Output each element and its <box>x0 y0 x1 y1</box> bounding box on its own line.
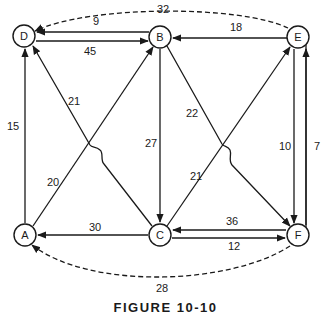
weight-E-B: 18 <box>230 21 242 33</box>
weight-E-D: 32 <box>157 3 169 15</box>
weight-F-C: 36 <box>226 215 238 227</box>
weight-A-D: 15 <box>7 120 19 132</box>
figure-caption: FIGURE 10-10 <box>0 300 331 315</box>
edge-A-B <box>33 47 153 226</box>
weight-B-D: 9 <box>93 15 99 27</box>
edge-C-E <box>167 47 290 226</box>
node-label: E <box>294 31 301 43</box>
weight-E-F: 10 <box>279 140 291 152</box>
weight-C-D: 21 <box>68 95 80 107</box>
weight-F-E: 7 <box>314 140 320 152</box>
weight-C-F: 12 <box>228 240 240 252</box>
node-label: C <box>156 229 164 241</box>
weight-B-F: 22 <box>186 107 198 119</box>
node-D: D <box>13 25 35 47</box>
network-diagram: 32 9 45 18 15 21 20 27 22 21 10 7 30 36 … <box>0 0 331 327</box>
node-F: F <box>287 224 309 246</box>
weight-F-A: 28 <box>156 282 168 294</box>
edge-F-A <box>32 245 290 277</box>
weight-A-B: 20 <box>47 176 59 188</box>
node-B: B <box>149 26 171 48</box>
weight-D-B: 45 <box>84 45 96 57</box>
node-A: A <box>14 224 36 246</box>
weight-C-A: 30 <box>89 221 101 233</box>
weight-B-C: 27 <box>145 137 157 149</box>
node-label: F <box>295 229 302 241</box>
node-label: B <box>156 31 163 43</box>
weight-C-E: 21 <box>190 170 202 182</box>
node-label: A <box>21 229 29 241</box>
node-label: D <box>20 30 28 42</box>
node-C: C <box>149 224 171 246</box>
node-E: E <box>287 26 309 48</box>
